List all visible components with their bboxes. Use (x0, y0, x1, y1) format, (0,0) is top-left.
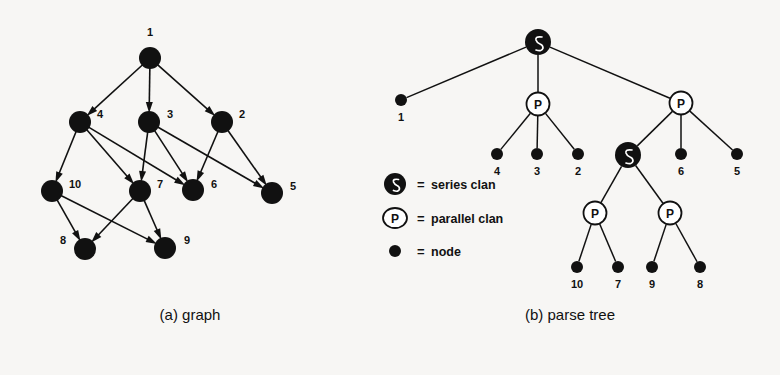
legend-node-icon (389, 245, 401, 257)
tree-leaf-label-leaf4: 4 (494, 165, 501, 177)
tree-edge-p1-leaf3 (537, 116, 538, 148)
tree-leaf-leaf10[interactable] (571, 261, 583, 273)
graph-edge-4-7 (87, 130, 129, 178)
graph-node-label-8: 8 (60, 234, 66, 246)
graph-node-10[interactable] (41, 180, 63, 202)
graph-node-8[interactable] (74, 238, 96, 260)
tree-leaf-leaf3[interactable] (531, 148, 543, 160)
legend-equals-sign: = (417, 177, 425, 192)
graph-node-9[interactable] (154, 237, 176, 259)
tree-parallel-clan-label-p2: P (677, 97, 685, 111)
tree-leaf-label-leaf10: 10 (571, 278, 583, 290)
tree-edge-p3-leaf7 (600, 224, 616, 261)
tree-leaf-label-leaf2: 2 (575, 165, 581, 177)
tree-edge-p2-s2 (637, 111, 672, 145)
tree-leaf-leaf7[interactable] (612, 261, 624, 273)
legend-label-parallel-clan: parallel clan (431, 212, 503, 226)
tree-edge-p4-leaf9 (654, 224, 666, 261)
graph-node-label-2: 2 (239, 108, 245, 120)
tree-leaf-label-leaf7: 7 (615, 278, 621, 290)
graph-edge-1-4 (93, 65, 142, 110)
tree-leaf-label-leaf9: 9 (649, 278, 655, 290)
tree-leaf-leaf2[interactable] (572, 148, 584, 160)
tree-leaf-label-leaf3: 3 (534, 165, 540, 177)
caption-panel-a: (a) graph (160, 306, 221, 323)
tree-edge-p3-leaf10 (579, 224, 591, 261)
tree-edge-s2-p3 (601, 166, 622, 202)
tree-edge-p1-leaf4 (501, 113, 531, 149)
legend-parallel-clan-glyph: P (391, 212, 399, 226)
graph-node-label-5: 5 (290, 180, 296, 192)
graph-node-label-6: 6 (211, 178, 217, 190)
graph-node-7[interactable] (129, 180, 151, 202)
graph-arrowhead-7-9 (154, 228, 162, 239)
tree-leaf-label-leaf1: 1 (398, 111, 404, 123)
tree-edge-p1-leaf2 (545, 113, 574, 149)
graph-arrowhead-4-10 (55, 171, 62, 183)
tree-leaf-leaf8[interactable] (694, 261, 706, 273)
graph-node-1[interactable] (139, 47, 161, 69)
graph-node-4[interactable] (69, 111, 91, 133)
tree-parallel-clan-label-p3: P (591, 207, 599, 221)
tree-edge-root-p2 (550, 47, 670, 98)
legend-equals-sign: = (417, 244, 425, 259)
graph-node-group: 14321076589 (41, 26, 296, 260)
graph-edge-1-2 (157, 65, 208, 110)
legend-label-series-clan: series clan (431, 178, 496, 192)
graph-node-5[interactable] (261, 182, 283, 204)
graph-arrowhead-10-8 (72, 230, 80, 241)
graph-node-label-4: 4 (97, 108, 104, 120)
tree-leaf-label-leaf5: 5 (734, 165, 740, 177)
tree-leaf-leaf4[interactable] (491, 148, 503, 160)
graph-edge-7-9 (144, 200, 158, 231)
graph-arrowhead-2-6 (197, 170, 205, 181)
tree-leaf-label-leaf8: 8 (697, 278, 703, 290)
tree-leaf-leaf1[interactable] (395, 94, 407, 106)
graph-node-2[interactable] (211, 111, 233, 133)
graph-node-label-7: 7 (157, 178, 163, 190)
tree-leaf-leaf9[interactable] (646, 261, 658, 273)
tree-leaf-label-leaf6: 6 (678, 165, 684, 177)
figure-container: 14321076589 1PP43265PP10798 =series clan… (0, 0, 780, 375)
graph-edge-3-6 (154, 130, 183, 174)
tree-parallel-clan-label-p4: P (666, 207, 674, 221)
graph-edge-1-3 (149, 68, 150, 104)
graph-edge-4-10 (59, 131, 76, 174)
graph-edge-4-6 (89, 127, 178, 181)
tree-parallel-clan-label-p1: P (534, 98, 542, 112)
graph-edge-group (55, 65, 266, 244)
graph-node-3[interactable] (138, 111, 160, 133)
graph-node-label-3: 3 (167, 108, 173, 120)
legend-equals-sign: = (417, 211, 425, 226)
tree-edge-p4-leaf8 (676, 223, 697, 261)
graph-edge-10-8 (57, 200, 76, 234)
graph-node-label-1: 1 (147, 26, 153, 38)
graph-node-label-9: 9 (184, 234, 190, 246)
tree-leaf-leaf5[interactable] (731, 148, 743, 160)
graph-edge-3-7 (142, 132, 147, 173)
legend-label-node: node (431, 245, 461, 259)
tree-edge-root-leaf1 (407, 47, 527, 98)
caption-panel-b: (b) parse tree (525, 306, 615, 323)
legend: =series clanP=parallel clan=node (383, 173, 503, 259)
tree-edge-p2-leaf5 (690, 111, 733, 150)
graph-node-6[interactable] (182, 179, 204, 201)
figure-svg: 14321076589 1PP43265PP10798 =series clan… (0, 0, 780, 375)
graph-arrowhead-10-9 (146, 236, 157, 244)
tree-leaf-leaf6[interactable] (675, 148, 687, 160)
tree-edge-s2-p4 (636, 166, 663, 204)
graph-node-label-10: 10 (69, 178, 81, 190)
